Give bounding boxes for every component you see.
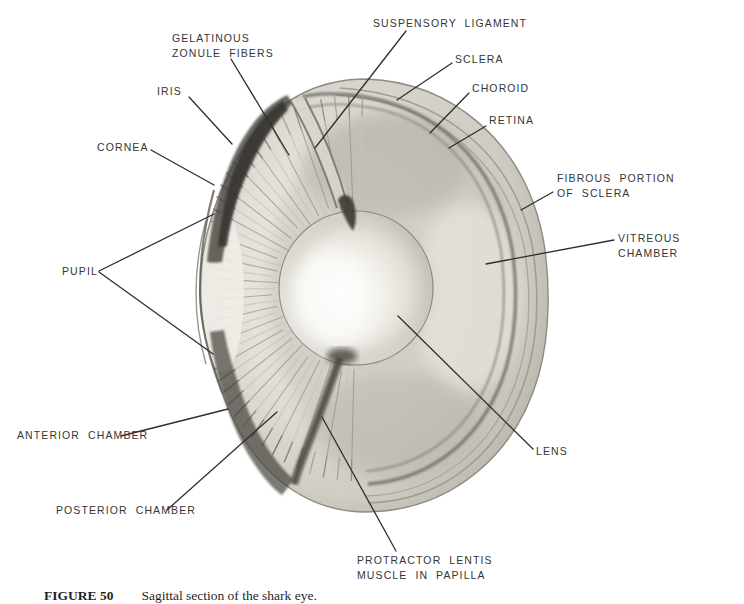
label-iris: IRIS — [157, 84, 182, 99]
label-fibrous-portion-of-sclera: FIBROUS PORTION OF SCLERA — [557, 171, 675, 201]
figure-caption-text: Sagittal section of the shark eye. — [141, 588, 316, 604]
label-sclera: SCLERA — [455, 52, 504, 67]
label-retina: RETINA — [489, 113, 534, 128]
leader-pupil-upper — [99, 214, 214, 271]
label-anterior-chamber: ANTERIOR CHAMBER — [17, 428, 148, 443]
label-choroid: CHOROID — [472, 81, 529, 96]
figure-number: FIGURE 50 — [44, 588, 113, 604]
label-protractor-lentis: PROTRACTOR LENTIS MUSCLE IN PAPILLA — [357, 553, 493, 583]
figure-caption: FIGURE 50 Sagittal section of the shark … — [44, 588, 317, 604]
label-lens: LENS — [536, 444, 568, 459]
label-pupil: PUPIL — [62, 264, 98, 279]
leader-cornea — [151, 150, 214, 185]
label-posterior-chamber: POSTERIOR CHAMBER — [56, 503, 196, 518]
eyeball-drawing — [196, 79, 548, 512]
label-cornea: CORNEA — [97, 140, 149, 155]
leader-iris — [189, 97, 232, 144]
label-vitreous-chamber: VITREOUS CHAMBER — [618, 231, 744, 261]
label-gelatinous-zonule-fibers: GELATINOUS ZONULE FIBERS — [172, 31, 274, 61]
label-suspensory-ligament: SUSPENSORY LIGAMENT — [373, 16, 527, 31]
